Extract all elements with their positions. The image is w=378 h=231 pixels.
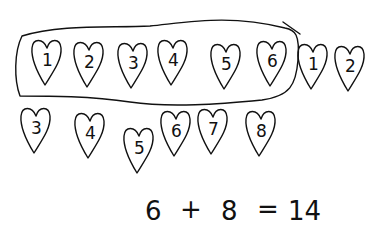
heart-number-label: 2 (84, 52, 95, 72)
heart-continuation-bottom-3: 3 (21, 109, 50, 154)
hearts-layer: 12345612345678 (21, 41, 364, 174)
equation-operator: + (180, 194, 202, 224)
heart-continuation-top-1: 1 (298, 45, 327, 90)
heart-continuation-bottom-4: 4 (75, 114, 104, 159)
drawing-canvas: 12345612345678 6 + 8 = 14 (0, 0, 378, 231)
heart-number-label: 8 (256, 121, 267, 141)
heart-number-label: 1 (308, 54, 319, 74)
heart-number-label: 4 (85, 123, 96, 143)
heart-continuation-bottom-5: 5 (124, 129, 153, 174)
heart-group-first-5: 5 (211, 45, 240, 90)
heart-number-label: 7 (208, 119, 219, 139)
heart-group-first-6: 6 (257, 42, 286, 87)
heart-number-label: 3 (31, 118, 42, 138)
heart-number-label: 1 (42, 50, 53, 70)
heart-number-label: 6 (171, 121, 182, 141)
heart-number-label: 3 (128, 53, 139, 73)
heart-group-first-2: 2 (74, 43, 103, 88)
heart-continuation-bottom-8: 8 (246, 112, 275, 157)
heart-continuation-top-2: 2 (335, 47, 364, 92)
heart-continuation-bottom-6: 6 (161, 112, 190, 157)
heart-number-label: 5 (134, 138, 145, 158)
equation-equals: = (257, 194, 279, 224)
heart-group-first-4: 4 (158, 41, 187, 86)
heart-group-first-1: 1 (32, 41, 61, 86)
equation-right: 8 (221, 196, 238, 226)
heart-number-label: 6 (267, 51, 278, 71)
equation-left: 6 (145, 196, 162, 226)
heart-group-first-3: 3 (118, 44, 147, 89)
heart-number-label: 2 (345, 56, 356, 76)
equation-result: 14 (288, 196, 321, 226)
heart-number-label: 5 (221, 54, 232, 74)
equation: 6 + 8 = 14 (145, 194, 321, 226)
heart-number-label: 4 (168, 50, 179, 70)
heart-continuation-bottom-7: 7 (198, 110, 227, 155)
